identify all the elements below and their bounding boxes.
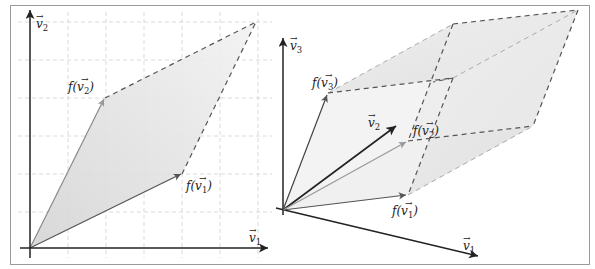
- right-panel-3d: v3 → v2 → v1 → f(v3) → f(v2) → f(v1) →: [276, 10, 578, 256]
- svg-text:→: →: [199, 173, 207, 183]
- image-parallelogram: [30, 22, 256, 248]
- svg-text:→: →: [368, 110, 376, 120]
- figure-canvas: v1 → v2 → f(v2) → f(v1) →: [0, 0, 595, 269]
- svg-text:→: →: [36, 11, 44, 21]
- svg-text:→: →: [426, 118, 434, 128]
- svg-text:→: →: [290, 33, 298, 43]
- axis-1: [276, 208, 478, 256]
- svg-text:→: →: [325, 70, 333, 80]
- svg-text:→: →: [405, 198, 413, 208]
- left-panel-2d: v1 → v2 → f(v2) → f(v1) →: [18, 10, 272, 258]
- svg-text:→: →: [249, 225, 257, 235]
- linear-map-volume-figure: v1 → v2 → f(v2) → f(v1) →: [0, 0, 595, 269]
- svg-text:→: →: [81, 74, 89, 84]
- svg-text:→: →: [463, 233, 471, 243]
